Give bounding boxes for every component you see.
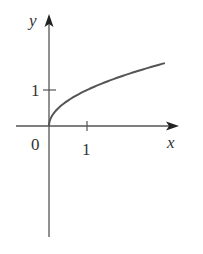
x-axis-label: x: [166, 133, 175, 152]
y-tick-label-1: 1: [31, 81, 40, 100]
origin-label: 0: [31, 135, 40, 154]
y-axis-label: y: [27, 11, 37, 30]
sqrt-curve: [49, 63, 165, 126]
sqrt-graph: y x 0 1 1: [0, 0, 203, 254]
x-tick-label-1: 1: [82, 140, 91, 159]
